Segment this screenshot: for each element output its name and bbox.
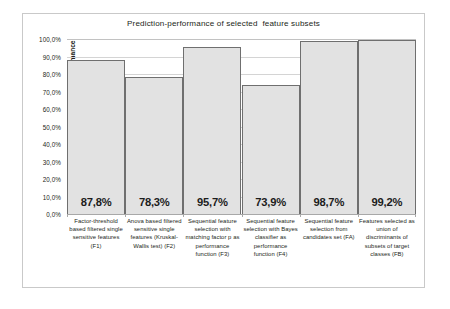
- y-axis-tick-label: 50,0%: [43, 123, 61, 130]
- bar[interactable]: [358, 40, 416, 214]
- x-axis-category-labels: Factor-threshold based filtered single s…: [67, 217, 416, 258]
- y-axis-tick-label: 70,0%: [43, 88, 61, 95]
- data-label-row: 87,8%78,3%95,7%73,9%98,7%99,2%: [67, 189, 416, 214]
- y-axis-tick-label: 0,0%: [46, 211, 61, 218]
- y-axis-tick-label: 80,0%: [43, 71, 61, 78]
- category-label: Features selected as union of discrimina…: [358, 217, 416, 258]
- y-axis-tick-label: 40,0%: [43, 141, 61, 148]
- category-label: Sequential feature selection with Bayes …: [242, 217, 300, 258]
- bar-data-label: 78,3%: [125, 189, 183, 214]
- y-axis-tick-label: 20,0%: [43, 176, 61, 183]
- category-label: Factor-threshold based filtered single s…: [67, 217, 125, 258]
- y-axis-tick-label: 100,0%: [39, 36, 61, 43]
- bar-data-label: 99,2%: [358, 189, 416, 214]
- category-label: Sequential feature selection from candid…: [300, 217, 358, 258]
- y-axis-tick-label: 60,0%: [43, 106, 61, 113]
- bar-data-label: 95,7%: [183, 189, 241, 214]
- y-axis-tick-label: 10,0%: [43, 193, 61, 200]
- y-axis-tick-labels: 100,0%90,0%80,0%70,0%60,0%50,0%40,0%30,0…: [23, 39, 65, 214]
- chart-title: Prediction-performance of selected featu…: [23, 19, 424, 28]
- bar-data-label: 98,7%: [300, 189, 358, 214]
- bar-data-label: 73,9%: [242, 189, 300, 214]
- y-axis-tick-label: 30,0%: [43, 158, 61, 165]
- category-label: Anova based filtered sensitive single fe…: [125, 217, 183, 258]
- plot-area: [67, 39, 416, 214]
- bar-data-label: 87,8%: [67, 189, 125, 214]
- chart-container: Prediction-performance of selected featu…: [22, 13, 425, 288]
- category-label: Sequential feature selection with matchi…: [183, 217, 241, 258]
- y-axis-tick-label: 90,0%: [43, 53, 61, 60]
